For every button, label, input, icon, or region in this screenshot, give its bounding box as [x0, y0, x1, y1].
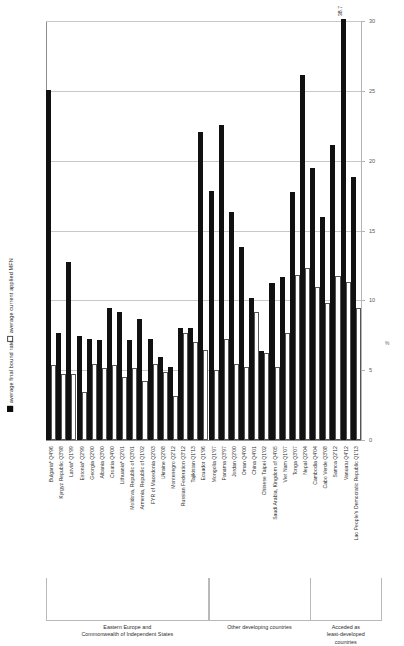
y-axis-tick — [361, 161, 365, 162]
x-axis-label-cell: Viet Nam Q1'07 — [280, 444, 290, 576]
x-axis-label-cell: Tajikistan Q1'13 — [188, 444, 198, 576]
x-axis-category-label: Armenia, Republic of Q1'02 — [139, 446, 145, 509]
bar-group[interactable] — [330, 21, 340, 440]
x-axis-label-cell: Croatia Q4'00 — [107, 444, 117, 576]
x-axis-label-cell: Moldova, Republic of Q3'01 — [127, 444, 137, 576]
x-axis-label-cell: Georgia Q2'00 — [87, 444, 97, 576]
bar-group[interactable] — [280, 21, 290, 440]
group-bracket-other — [209, 578, 311, 621]
x-axis-category-label: Estonia* Q2'99 — [79, 446, 85, 481]
bar-group[interactable] — [188, 21, 198, 440]
y-axis-tick-label: 5 — [369, 367, 372, 373]
bar-group[interactable] — [310, 21, 320, 440]
x-axis-label-cell: Ecuador Q1'96 — [198, 444, 208, 576]
bar-group[interactable] — [209, 21, 219, 440]
x-axis-category-label: Jordan Q2'00 — [231, 446, 237, 477]
legend-entry-applied-mfn: average current applied MFN — [7, 258, 14, 342]
chart-legend: average current applied MFN average fina… — [14, 215, 30, 405]
x-axis-category-label: Latvia* Q1'99 — [68, 446, 74, 477]
x-axis-label-cell: Montenegro Q2'12 — [168, 444, 178, 576]
x-axis-label-cell: Cabo Verde Q3'08 — [320, 444, 330, 576]
bar-group[interactable] — [97, 21, 107, 440]
x-axis-category-label: Samoa Q2'12 — [332, 446, 338, 478]
legend-entry-final-bound: average final bound rate — [7, 340, 14, 411]
bar-group[interactable] — [290, 21, 300, 440]
y-axis-tick-label: 30 — [369, 18, 375, 24]
x-axis-label-cell: Panama Q3'97 — [219, 444, 229, 576]
bar-group[interactable] — [158, 21, 168, 440]
x-axis-label-cell: Chinese Taipei Q1'02 — [259, 444, 269, 576]
bar-group[interactable] — [249, 21, 259, 440]
bar-group[interactable] — [56, 21, 66, 440]
bar-group[interactable] — [239, 21, 249, 440]
bar-group[interactable] — [229, 21, 239, 440]
bar-group[interactable] — [66, 21, 76, 440]
x-axis-label-cell: China Q4'01 — [249, 444, 259, 576]
group-bracket-eeca — [46, 578, 209, 621]
bar-group[interactable] — [107, 21, 117, 440]
bar-series-container: 38.7 — [46, 21, 361, 440]
y-axis-tick — [361, 21, 365, 22]
x-axis-category-label: Kyrgyz Republic Q3'98 — [58, 446, 64, 499]
bar-group[interactable] — [351, 21, 361, 440]
bar-group[interactable] — [198, 21, 208, 440]
x-axis-category-labels: Bulgaria* Q4'96Kyrgyz Republic Q3'98Latv… — [46, 444, 361, 576]
bar-group[interactable] — [300, 21, 310, 440]
x-axis-category-label: Tajikistan Q1'13 — [190, 446, 196, 483]
bar-group[interactable] — [259, 21, 269, 440]
x-axis-category-label: Cambodia Q4'04 — [312, 446, 318, 485]
y-axis-tick-label: 20 — [369, 158, 375, 164]
x-axis-category-label: Bulgaria* Q4'96 — [48, 446, 54, 482]
x-axis-category-label: China Q4'01 — [251, 446, 257, 475]
group-brackets: Eastern Europe andCommonwealth of Indepe… — [46, 578, 361, 626]
bar-group[interactable] — [137, 21, 147, 440]
bar-group[interactable] — [87, 21, 97, 440]
x-axis-label-cell: Samoa Q2'12 — [330, 444, 340, 576]
x-axis-category-label: Lao People's Democratic Republic Q1'13 — [353, 446, 359, 540]
x-axis-category-label: Cabo Verde Q3'08 — [322, 446, 328, 489]
x-axis-baseline — [46, 440, 361, 441]
bar-group[interactable] — [320, 21, 330, 440]
x-axis-label-cell: Jordan Q2'00 — [229, 444, 239, 576]
group-label-other: Other developing countries — [209, 624, 311, 631]
bar-group[interactable] — [269, 21, 279, 440]
group-bracket-ldc — [310, 578, 382, 621]
x-axis-category-label: Montenegro Q2'12 — [170, 446, 176, 489]
x-axis-label-cell: Lithuania* Q2'01 — [117, 444, 127, 576]
bar-group[interactable]: 38.7 — [341, 21, 351, 440]
y-axis-tick — [361, 91, 365, 92]
x-axis-category-label: Croatia Q4'00 — [109, 446, 115, 478]
x-axis-label-cell: FYR of Macedonia Q2'03 — [148, 444, 158, 576]
group-label-ldc: Acceded asleast-developedcountries — [310, 624, 381, 646]
x-axis-category-label: FYR of Macedonia Q2'03 — [150, 446, 156, 504]
x-axis-label-cell: Latvia* Q1'99 — [66, 444, 76, 576]
x-axis-label-cell: Vanuatu Q4'12 — [341, 444, 351, 576]
x-axis-category-label: Lithuania* Q2'01 — [119, 446, 125, 484]
x-axis-category-label: Saudi Arabia, Kingdom of Q4'05 — [272, 446, 278, 520]
x-axis-category-label: Tonga Q3'07 — [292, 446, 298, 475]
bar-group[interactable] — [178, 21, 188, 440]
bar-group[interactable] — [127, 21, 137, 440]
group-label-eeca: Eastern Europe andCommonwealth of Indepe… — [46, 624, 209, 639]
x-axis-label-cell: Oman Q4'00 — [239, 444, 249, 576]
y-axis-tick-label: 0 — [369, 437, 372, 443]
x-axis-label-cell: Cambodia Q4'04 — [310, 444, 320, 576]
x-axis-category-label: Ukraine Q2'08 — [160, 446, 166, 479]
x-axis-label-cell: Nepal Q2'04 — [300, 444, 310, 576]
x-axis-label-cell: Albania Q3'00 — [97, 444, 107, 576]
bar-applied-mfn[interactable] — [356, 308, 361, 440]
x-axis-label-cell: Armenia, Republic of Q1'02 — [137, 444, 147, 576]
y-axis-tick — [361, 300, 365, 301]
x-axis-label-cell: Tonga Q3'07 — [290, 444, 300, 576]
plot-area: 38.7 — [46, 21, 361, 440]
bar-group[interactable] — [117, 21, 127, 440]
bar-group[interactable] — [219, 21, 229, 440]
bar-group[interactable] — [76, 21, 86, 440]
y-axis-tick — [361, 370, 365, 371]
bar-group[interactable] — [46, 21, 56, 440]
x-axis-category-label: Ecuador Q1'96 — [200, 446, 206, 480]
y-axis-tick — [361, 231, 365, 232]
x-axis-label-cell: Bulgaria* Q4'96 — [46, 444, 56, 576]
bar-group[interactable] — [168, 21, 178, 440]
bar-group[interactable] — [148, 21, 158, 440]
